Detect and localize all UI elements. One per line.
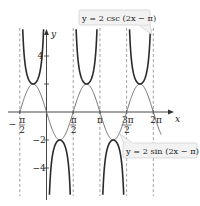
csc-callout: y = 2 csc (2x − π) [79,10,156,35]
sin-callout: y = 2 sin (2x − π) [120,134,199,158]
csc-callout-label: y = 2 csc (2x − π) [81,13,156,23]
x-tick-sign: − [9,119,17,129]
x-tick-numerator: π [19,115,25,125]
x-axis-arrow-icon [168,110,174,115]
x-axis-label: x [175,114,180,124]
y-tick-label: −2 [33,135,46,145]
x-tick-denominator: 2 [71,125,77,135]
x-tick-denominator: 2 [124,125,130,135]
y-tick-label: −4 [33,163,47,173]
sin-callout-label: y = 2 sin (2x − π) [125,146,199,156]
y-axis-label: y [50,29,57,39]
csc-callout-pointer [138,24,152,35]
csc-branch [103,140,124,195]
y-axis-arrow-icon [44,29,49,35]
x-tick-denominator: 2 [19,125,25,135]
csc-branch [76,29,97,84]
csc-branch [49,140,70,195]
graph: x y −π2π2π3π22π4−2−4 y = 2 csc (2x − π) … [0,0,200,206]
csc-branch [130,29,151,84]
